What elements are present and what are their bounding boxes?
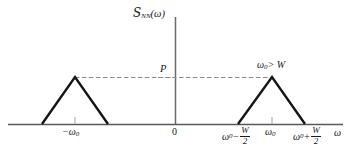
left-band-edge-label: ω0− W 2 [222,126,250,146]
negative-center-symbol: −ω [62,126,76,137]
left-edge-fraction-denominator: 2 [242,137,249,146]
omega-axis-label: ω [334,128,341,138]
right-edge-operator: + [304,131,311,142]
condition-operator: > [268,59,277,70]
yaxis-title: SNN(ω) [133,7,165,20]
positive-center-subscript: 0 [272,130,276,138]
right-edge-fraction-denominator: 2 [313,137,320,146]
yaxis-subscript: NN [141,12,150,20]
condition-annotation: ω0> W [257,60,285,71]
left-edge-fraction: W 2 [240,126,250,146]
left-edge-operator: − [233,131,240,142]
right-edge-fraction-numerator: W [311,126,321,135]
positive-frequency-triangle [238,77,305,124]
left-edge-fraction-numerator: W [240,126,250,135]
yaxis-argument: (ω) [151,8,165,19]
left-edge-symbol: ω [222,131,229,142]
right-band-edge-label: ω0+ W 2 [293,126,321,146]
positive-center-label: ω0 [265,127,276,138]
positive-center-symbol: ω [265,126,272,137]
right-edge-fraction: W 2 [311,126,321,146]
peak-value-label: P [160,64,166,75]
origin-label: 0 [172,127,177,137]
negative-center-subscript: 0 [76,130,80,138]
right-edge-symbol: ω [293,131,300,142]
negative-center-label: −ω0 [62,127,79,138]
condition-rhs-symbol: W [277,59,285,70]
condition-lhs-symbol: ω [257,59,264,70]
psd-figure: SNN(ω) P 0 −ω0 ω0 ω ω0> W ω0− W 2 ω0+ W … [0,0,354,153]
negative-frequency-triangle [42,77,108,124]
yaxis-script-symbol: S [133,6,141,20]
